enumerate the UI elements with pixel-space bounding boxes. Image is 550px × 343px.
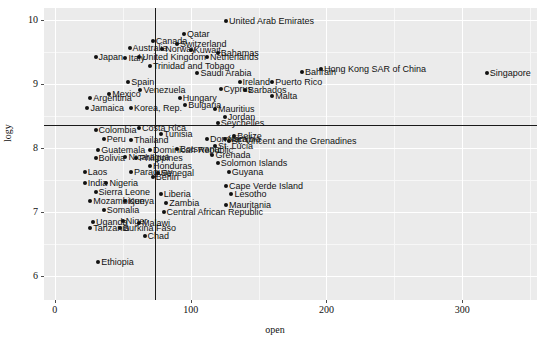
y-tick-label: 6 [20,271,38,281]
point-label: Peru [107,134,126,143]
data-point [151,175,155,179]
point-label: Argentina [93,93,132,102]
x-axis-title: open [0,324,550,335]
gridline [326,8,327,300]
data-point [94,55,98,59]
data-point [183,103,187,107]
data-point [137,126,141,130]
data-point [94,156,98,160]
point-label: Hong Kong SAR of China [324,65,426,74]
data-point [85,106,89,110]
data-point [129,170,133,174]
data-point [162,210,166,214]
data-point [164,201,168,205]
data-point [94,190,98,194]
x-tick-mark [462,300,463,303]
data-point [227,170,231,174]
point-label: Bolivia [99,153,126,162]
data-point [229,192,233,196]
y-tick-mark [41,20,44,21]
y-tick-mark [41,212,44,213]
chart-root: United Arab EmiratesQatarCanadaSwitzerla… [0,0,550,343]
data-point [94,128,98,132]
data-point [102,137,106,141]
data-point [243,88,247,92]
point-label: Singapore [490,69,531,78]
point-label: Laos [88,167,108,176]
x-tick-mark [191,300,192,303]
data-point [213,107,217,111]
point-label: United Arab Emirates [229,16,314,25]
point-label: Chad [148,231,170,240]
data-point [148,64,152,68]
data-point [88,96,92,100]
data-point [205,55,209,59]
point-label: Venezuela [143,85,185,94]
data-point [219,87,223,91]
y-tick-mark [41,84,44,85]
point-label: Malta [275,92,297,101]
y-axis-title: logy [2,124,13,142]
data-point [129,106,133,110]
y-tick-label: 7 [20,207,38,217]
data-point [123,155,127,159]
data-point [88,199,92,203]
data-point [123,56,127,60]
point-label: Benin [156,173,179,182]
gridline [55,8,56,300]
plot-panel: United Arab EmiratesQatarCanadaSwitzerla… [44,8,537,300]
data-point [128,46,132,50]
data-point [143,234,147,238]
data-point [83,181,87,185]
data-point [104,181,108,185]
y-tick-label: 8 [20,143,38,153]
y-tick-mark [41,276,44,277]
data-point [210,153,214,157]
data-point [178,96,182,100]
gridline [462,8,463,300]
data-point [224,19,228,23]
x-tick-mark [326,300,327,303]
x-tick-label: 0 [52,305,57,315]
point-label: Ethiopia [101,257,134,266]
point-label: Jamaica [90,103,124,112]
data-point [96,260,100,264]
point-label: Lesotho [234,189,266,198]
x-tick-label: 200 [319,305,334,315]
y-tick-mark [41,148,44,149]
data-point [88,226,92,230]
data-point [224,184,228,188]
data-point [159,192,163,196]
data-point [216,161,220,165]
gridline [44,276,537,277]
data-point [83,170,87,174]
point-label: Somalia [107,206,140,215]
point-label: Korea, Rep. [134,103,182,112]
y-tick-label: 10 [20,15,38,25]
data-point [485,71,489,75]
data-point [195,71,199,75]
x-tick-label: 300 [455,305,470,315]
data-point [270,94,274,98]
point-label: Seychelles [221,119,265,128]
data-point [205,137,209,141]
x-tick-mark [55,300,56,303]
data-point [300,70,304,74]
y-tick-label: 9 [20,79,38,89]
data-point [129,138,133,142]
point-label: Thailand [134,135,169,144]
x-tick-label: 100 [183,305,198,315]
point-label: Guyana [232,167,264,176]
point-label: Qatar [187,29,210,38]
point-label: Central African Republic [167,207,264,216]
point-label: Japan [99,52,124,61]
